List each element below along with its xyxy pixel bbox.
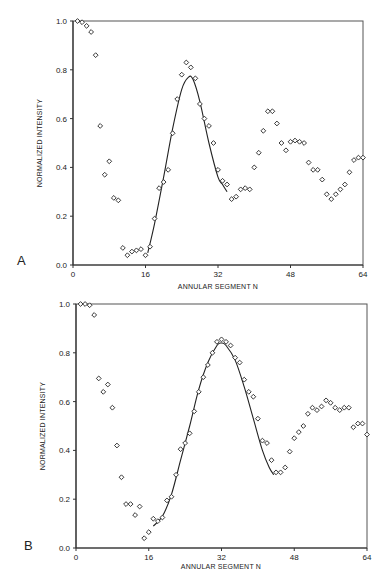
data-point <box>302 141 307 146</box>
data-point <box>287 449 292 454</box>
data-point <box>351 425 356 430</box>
x-tick-label: 48 <box>286 270 295 279</box>
y-tick-label: 0.4 <box>56 163 68 172</box>
data-point <box>324 192 329 197</box>
data-point <box>139 247 144 252</box>
data-points <box>78 302 369 541</box>
data-point <box>252 165 257 170</box>
data-point <box>320 177 325 182</box>
figure: 0.00.20.40.60.81.0 016324864 ANNULAR SEG… <box>0 0 384 581</box>
x-ticks: 016324864 <box>71 265 368 279</box>
data-point <box>111 196 116 201</box>
data-point <box>188 65 193 70</box>
data-point <box>207 124 212 129</box>
data-point <box>237 360 242 365</box>
panel-label-b: B <box>24 538 33 553</box>
x-tick-label: 48 <box>290 553 299 562</box>
data-point <box>178 447 183 452</box>
data-point <box>284 148 289 153</box>
data-point <box>102 172 107 177</box>
x-tick-label: 16 <box>141 270 150 279</box>
data-point <box>296 430 301 435</box>
x-tick-label: 64 <box>359 270 368 279</box>
data-point <box>210 350 215 355</box>
data-point <box>75 19 80 24</box>
data-point <box>269 458 274 463</box>
y-tick-label: 0.0 <box>59 544 71 553</box>
data-point <box>261 128 266 133</box>
data-point <box>270 109 275 114</box>
data-point <box>183 441 188 446</box>
y-tick-label: 0.2 <box>56 212 68 221</box>
data-point <box>352 158 357 163</box>
data-point <box>166 167 171 172</box>
data-point <box>133 513 138 518</box>
data-point <box>292 436 297 441</box>
data-point <box>243 186 248 191</box>
data-point <box>107 159 112 164</box>
data-point <box>310 405 315 410</box>
y-tick-label: 0.0 <box>56 261 68 270</box>
data-point <box>96 376 101 381</box>
y-tick-label: 0.4 <box>59 446 71 455</box>
data-point <box>115 443 120 448</box>
data-point <box>324 398 329 403</box>
data-point <box>98 124 103 129</box>
data-point <box>234 194 239 199</box>
data-point <box>283 465 288 470</box>
x-ticks: 016324864 <box>74 548 372 562</box>
data-point <box>119 475 124 480</box>
data-point <box>306 160 311 165</box>
data-point <box>288 139 293 144</box>
data-point <box>151 516 156 521</box>
data-point <box>184 60 189 65</box>
data-point <box>83 302 88 307</box>
data-point <box>93 53 98 58</box>
data-point <box>110 405 115 410</box>
data-point <box>219 337 224 342</box>
data-point <box>251 394 256 399</box>
data-point <box>146 530 151 535</box>
data-point <box>89 30 94 35</box>
data-point <box>337 408 342 413</box>
data-point <box>202 116 207 121</box>
x-tick-label: 0 <box>71 270 76 279</box>
data-point <box>116 198 121 203</box>
x-tick-label: 32 <box>217 553 226 562</box>
x-tick-label: 32 <box>214 270 223 279</box>
data-point <box>130 249 135 254</box>
y-axis-label: NORMALIZED INTENSITY <box>36 99 43 188</box>
data-point <box>125 253 130 258</box>
data-point <box>315 167 320 172</box>
data-point <box>255 416 260 421</box>
data-point <box>128 502 133 507</box>
data-point <box>137 504 142 509</box>
data-point <box>333 192 338 197</box>
data-point <box>278 470 283 475</box>
fit-curve <box>148 76 227 253</box>
data-point <box>338 187 343 192</box>
data-point <box>197 102 202 107</box>
data-point <box>305 411 310 416</box>
data-point <box>297 139 302 144</box>
data-point <box>315 408 320 413</box>
data-point <box>105 382 110 387</box>
data-point <box>365 432 370 437</box>
x-axis-label: ANNULAR SEGMENT N <box>181 563 261 570</box>
panel-label-a: A <box>17 253 26 268</box>
y-tick-label: 0.6 <box>59 398 71 407</box>
data-point <box>246 389 251 394</box>
x-tick-label: 64 <box>363 553 372 562</box>
data-point <box>329 197 334 202</box>
data-point <box>328 400 333 405</box>
panel-b: 0.00.20.40.60.81.0 016324864 ANNULAR SEG… <box>24 300 372 570</box>
data-points <box>75 19 365 258</box>
data-point <box>361 155 366 160</box>
y-tick-label: 0.6 <box>56 115 68 124</box>
data-point <box>247 187 252 192</box>
data-point <box>101 389 106 394</box>
y-tick-label: 1.0 <box>56 17 68 26</box>
data-point <box>260 438 265 443</box>
y-ticks: 0.00.20.40.60.81.0 <box>56 17 73 270</box>
data-point <box>120 246 125 251</box>
